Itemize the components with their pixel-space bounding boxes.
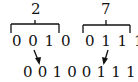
decimal-digit-left: 2 bbox=[31, 2, 41, 17]
bits-left: 0 0 1 0 bbox=[12, 34, 71, 49]
combined-bits: 0 0 1 0 0 1 1 1 bbox=[23, 65, 136, 80]
bits-right: 0 1 1 1 bbox=[85, 34, 138, 49]
decimal-digit-right: 7 bbox=[101, 2, 111, 17]
